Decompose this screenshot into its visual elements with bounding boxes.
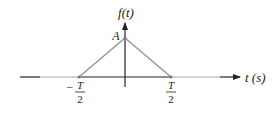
peak-label: A [111,29,120,43]
x-axis-label: t (s) [245,70,266,85]
left-tick-numerator: T [77,79,84,91]
triangular-pulse-diagram: f(t) A t (s) − T 2 T 2 [0,0,278,114]
right-tick-numerator: T [168,79,175,91]
y-axis-label: f(t) [118,5,134,20]
left-tick-sign: − [67,80,74,94]
peak-marker [124,37,127,40]
right-tick-label: T 2 [166,79,176,105]
left-tick-label: − T 2 [67,79,85,105]
right-tick-denominator: 2 [168,93,174,105]
left-tick-denominator: 2 [77,93,83,105]
